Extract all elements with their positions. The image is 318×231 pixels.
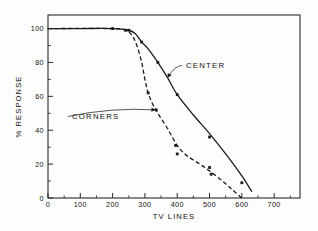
x-tick-label: 100 [74,200,87,209]
x-axis-tick-labels: 0100200300400500600700 [46,200,281,209]
y-tick-label: 100 [31,24,44,33]
x-tick-label: 700 [268,200,281,209]
series-label-center: CENTER [186,61,225,70]
data-marker [240,181,243,184]
x-tick-label: 0 [46,200,50,209]
plot-frame [48,15,300,198]
y-tick-label: 40 [35,126,44,135]
x-tick-label: 200 [106,200,119,209]
data-marker [147,92,150,95]
data-marker [208,136,211,139]
data-marker [124,29,127,32]
data-marker [111,27,114,30]
x-tick-label: 300 [138,200,151,209]
x-axis-title: TV LINES [153,212,196,221]
data-marker [156,61,159,64]
data-point-markers [111,27,243,184]
chart-canvas: 0100200300400500600700 020406080100 CENT… [0,0,318,231]
y-tick-label: 60 [35,92,44,101]
x-tick-label: 500 [203,200,216,209]
series-annotations: CENTERCORNERS [68,61,225,121]
data-marker [176,93,179,96]
data-marker [210,173,213,176]
data-marker [140,41,143,44]
y-axis-title: % RESPONSE [14,75,23,137]
y-tick-label: 0 [40,194,44,203]
data-marker [174,144,177,147]
leader-arrowhead [168,73,172,78]
y-axis-tick-labels: 020406080100 [31,24,44,202]
data-marker [176,153,179,156]
chart-figure: 0100200300400500600700 020406080100 CENT… [0,0,318,231]
x-tick-label: 600 [235,200,248,209]
data-marker [208,166,211,169]
x-tick-label: 400 [171,200,184,209]
series-label-corners: CORNERS [72,112,119,121]
y-tick-label: 80 [35,58,44,67]
data-marker [127,29,130,32]
y-tick-label: 20 [35,160,44,169]
